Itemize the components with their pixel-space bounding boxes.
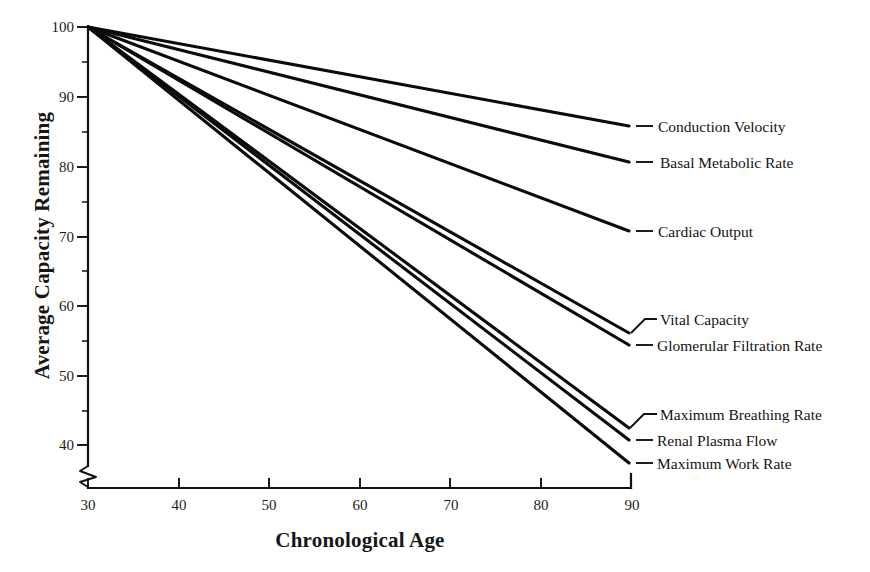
- series-line-glomerular-filtration-rate: [88, 27, 629, 345]
- leader-line-maximum-breathing-rate: [630, 414, 657, 428]
- plot-area: [0, 0, 870, 572]
- series-line-renal-plasma-flow: [88, 27, 629, 440]
- series-label-vital-capacity: Vital Capacity: [660, 312, 749, 328]
- series-label-conduction-velocity: Conduction Velocity: [658, 119, 786, 135]
- series-line-basal-metabolic-rate: [88, 27, 629, 162]
- series-line-vital-capacity: [88, 27, 629, 333]
- series-label-glomerular-filtration-rate: Glomerular Filtration Rate: [657, 338, 822, 354]
- series-label-maximum-breathing-rate: Maximum Breathing Rate: [660, 407, 822, 423]
- chart-figure: Average Capacity Remaining Chronological…: [0, 0, 870, 572]
- x-major-ticks: [88, 478, 631, 488]
- series-line-maximum-work-rate: [88, 27, 629, 463]
- leader-line-vital-capacity: [631, 319, 657, 333]
- series-label-renal-plasma-flow: Renal Plasma Flow: [657, 433, 778, 449]
- series-label-basal-metabolic-rate: Basal Metabolic Rate: [660, 155, 793, 171]
- series-label-maximum-work-rate: Maximum Work Rate: [657, 456, 792, 472]
- series-line-conduction-velocity: [88, 27, 629, 126]
- y-major-ticks: [77, 27, 88, 445]
- series-line-cardiac-output: [88, 27, 629, 231]
- series-label-cardiac-output: Cardiac Output: [658, 224, 753, 240]
